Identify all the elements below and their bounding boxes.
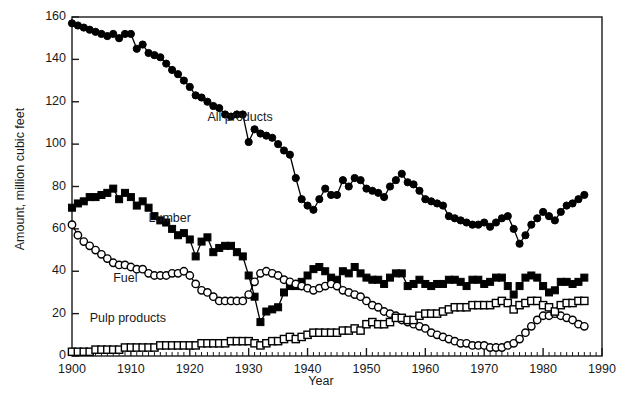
data-point <box>345 183 352 190</box>
data-point <box>257 319 264 326</box>
data-point <box>180 77 187 84</box>
data-point <box>504 213 511 220</box>
data-series-layer <box>68 20 588 356</box>
data-point <box>298 196 305 203</box>
data-point <box>439 202 446 209</box>
data-point <box>310 206 317 213</box>
data-point <box>275 141 282 148</box>
y-axis-label: Amount, million cubic feet <box>13 99 27 259</box>
x-tick-label: 1900 <box>42 362 102 376</box>
data-point <box>528 323 535 330</box>
x-tick-label: 1980 <box>513 362 573 376</box>
data-point <box>322 185 329 192</box>
data-point <box>275 304 282 311</box>
data-point <box>534 215 541 222</box>
data-point <box>528 221 535 228</box>
data-point <box>139 41 146 48</box>
data-point <box>239 297 246 304</box>
data-point <box>516 240 523 247</box>
data-point <box>516 335 523 342</box>
data-point <box>245 272 252 279</box>
data-point <box>68 221 75 228</box>
x-tick-label: 1990 <box>572 362 632 376</box>
x-tick-label: 1910 <box>101 362 161 376</box>
series-all-products <box>68 20 588 248</box>
chart-plot-area <box>0 0 641 402</box>
data-point <box>74 232 81 239</box>
data-point <box>581 274 588 281</box>
data-point <box>398 270 405 277</box>
series-annotation: Fuel <box>113 271 137 285</box>
data-point <box>239 253 246 260</box>
x-tick-label: 1970 <box>454 362 514 376</box>
x-tick-label: 1950 <box>336 362 396 376</box>
data-point <box>192 253 199 260</box>
data-point <box>333 191 340 198</box>
y-tick-label: 140 <box>26 51 66 65</box>
x-tick-label: 1960 <box>395 362 455 376</box>
data-point <box>269 134 276 141</box>
data-point <box>392 177 399 184</box>
data-point <box>357 177 364 184</box>
data-point <box>581 297 588 304</box>
data-point <box>410 181 417 188</box>
y-tick-label: 160 <box>26 9 66 23</box>
data-point <box>416 187 423 194</box>
data-point <box>127 30 134 37</box>
data-point <box>251 278 258 285</box>
data-point <box>110 185 117 192</box>
data-point <box>557 208 564 215</box>
data-point <box>551 217 558 224</box>
data-point <box>163 60 170 67</box>
series-annotation: All products <box>207 110 272 124</box>
data-point <box>386 183 393 190</box>
data-point <box>522 329 529 336</box>
data-point <box>498 274 505 281</box>
data-point <box>510 291 517 298</box>
data-point <box>286 151 293 158</box>
data-point <box>581 191 588 198</box>
data-point <box>381 193 388 200</box>
data-point <box>157 54 164 61</box>
series-annotation: Pulp products <box>90 311 166 325</box>
y-tick-label: 80 <box>26 179 66 193</box>
y-tick-label: 120 <box>26 94 66 108</box>
data-point <box>145 204 152 211</box>
data-point <box>316 196 323 203</box>
data-point <box>174 71 181 78</box>
data-point <box>245 138 252 145</box>
data-point <box>339 177 346 184</box>
y-tick-label: 20 <box>26 306 66 320</box>
data-point <box>192 280 199 287</box>
data-point <box>186 272 193 279</box>
y-tick-label: 100 <box>26 136 66 150</box>
series-annotation: Lumber <box>149 211 191 225</box>
x-tick-label: 1940 <box>278 362 338 376</box>
data-point <box>516 283 523 290</box>
y-tick-label: 60 <box>26 221 66 235</box>
data-point <box>581 323 588 330</box>
data-point <box>522 232 529 239</box>
data-point <box>186 236 193 243</box>
data-point <box>504 283 511 290</box>
data-point <box>127 194 134 201</box>
data-point <box>204 234 211 241</box>
chart-figure: Amount, million cubic feet Year 02040608… <box>0 0 641 402</box>
data-point <box>551 287 558 294</box>
data-point <box>245 291 252 298</box>
data-point <box>510 225 517 232</box>
x-axis-label: Year <box>291 374 351 388</box>
data-point <box>186 83 193 90</box>
x-tick-label: 1920 <box>160 362 220 376</box>
data-point <box>292 174 299 181</box>
y-tick-label: 0 <box>26 348 66 362</box>
data-point <box>534 274 541 281</box>
data-point <box>398 170 405 177</box>
y-tick-label: 40 <box>26 263 66 277</box>
x-tick-label: 1930 <box>219 362 279 376</box>
